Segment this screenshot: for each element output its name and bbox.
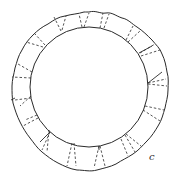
inner-circle: [30, 27, 148, 147]
radial-solid-ticks: [11, 46, 162, 150]
panel-label: c: [149, 152, 155, 162]
